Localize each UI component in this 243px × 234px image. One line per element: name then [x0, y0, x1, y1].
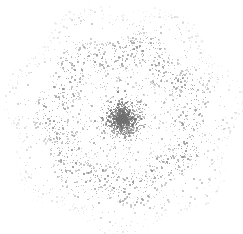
scatter-plot-figure — [0, 0, 243, 234]
scatter-plot-canvas — [0, 0, 243, 234]
